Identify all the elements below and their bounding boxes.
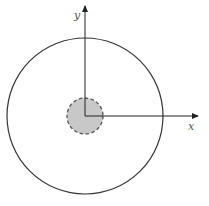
diagram-canvas: y x (0, 0, 209, 206)
x-axis-label: x (188, 120, 195, 133)
y-axis-label: y (73, 9, 81, 22)
